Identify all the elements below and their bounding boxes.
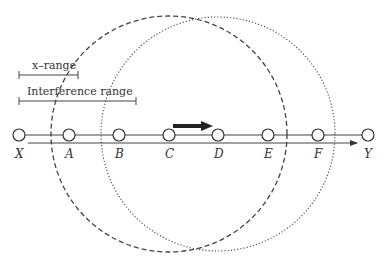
node-label-d: D [213, 147, 224, 161]
node-label-y: Y [364, 147, 373, 161]
node-b [113, 129, 125, 141]
node-label-b: B [114, 147, 124, 161]
node-label-a: A [64, 147, 74, 161]
node-a [63, 129, 75, 141]
node-d [212, 129, 224, 141]
interference-range-bar [19, 97, 136, 105]
node-label-e: E [263, 147, 273, 161]
node-x [13, 129, 25, 141]
node-label-f: F [313, 147, 323, 161]
node-y [362, 129, 374, 141]
node-label-x: X [14, 147, 24, 161]
x-range-label: x–range [32, 59, 76, 72]
interference-range-label: Interference range [27, 85, 133, 98]
transmission-arrow-icon [173, 121, 213, 131]
node-c [163, 129, 175, 141]
node-e [262, 129, 274, 141]
node-f [312, 129, 324, 141]
interference-range-diagram: x–range Interference range X A B C D E F… [0, 0, 385, 267]
node-label-c: C [165, 147, 174, 161]
